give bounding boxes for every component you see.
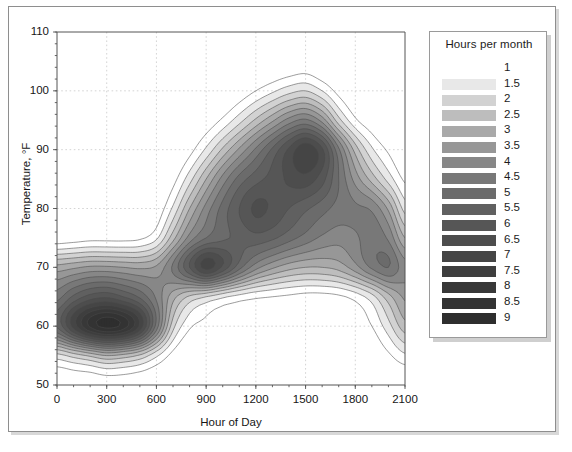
legend-entry: 6 (430, 216, 548, 232)
legend-entry-label: 6 (504, 216, 510, 230)
legend-color-swatch (442, 188, 496, 199)
legend-entry: 3.5 (430, 138, 548, 154)
legend-entry: 1 (430, 60, 548, 76)
legend-color-swatch (442, 173, 496, 184)
legend-entry: 4 (430, 154, 548, 170)
legend-entry: 5 (430, 185, 548, 201)
contour-plot-figure: 5060708090100110 03006009001200150018002… (0, 0, 572, 452)
legend-color-swatch (442, 95, 496, 106)
legend-entry-label: 1.5 (504, 76, 520, 90)
legend-entry-label: 2.5 (504, 107, 520, 121)
legend-entry: 5.5 (430, 200, 548, 216)
legend-entry: 8.5 (430, 294, 548, 310)
legend-entry-label: 5.5 (504, 200, 520, 214)
legend-color-swatch (442, 251, 496, 262)
legend-color-swatch (442, 110, 496, 121)
legend-title: Hours per month (430, 38, 548, 50)
legend-entry-label: 6.5 (504, 232, 520, 246)
legend-color-swatch (442, 64, 496, 75)
legend-color-swatch (442, 79, 496, 90)
legend-entry-label: 4 (504, 154, 510, 168)
legend-color-swatch (442, 313, 496, 324)
legend-entry-label: 1 (504, 60, 510, 74)
legend-entry-list: 11.522.533.544.555.566.577.588.59 (430, 60, 548, 325)
legend-entry-label: 8.5 (504, 294, 520, 308)
legend-entry: 7 (430, 247, 548, 263)
legend-color-swatch (442, 220, 496, 231)
legend-entry-label: 3 (504, 122, 510, 136)
legend-entry: 7.5 (430, 263, 548, 279)
legend-entry: 8 (430, 278, 548, 294)
legend-entry-label: 7 (504, 247, 510, 261)
legend-entry: 2.5 (430, 107, 548, 123)
legend-entry-label: 2 (504, 91, 510, 105)
legend-entry-label: 9 (504, 310, 510, 324)
legend-entry: 9 (430, 310, 548, 326)
legend-color-swatch (442, 235, 496, 246)
legend-color-swatch (442, 266, 496, 277)
legend-entry-label: 7.5 (504, 263, 520, 277)
legend-color-swatch (442, 282, 496, 293)
legend-color-swatch (442, 126, 496, 137)
legend-entry: 1.5 (430, 76, 548, 92)
legend-entry-label: 4.5 (504, 169, 520, 183)
legend-entry-label: 8 (504, 278, 510, 292)
legend-color-swatch (442, 142, 496, 153)
legend-entry: 6.5 (430, 232, 548, 248)
legend-color-swatch (442, 204, 496, 215)
legend-entry-label: 3.5 (504, 138, 520, 152)
legend-entry: 3 (430, 122, 548, 138)
legend-entry: 2 (430, 91, 548, 107)
legend-panel: Hours per month 11.522.533.544.555.566.5… (429, 31, 547, 338)
legend-entry: 4.5 (430, 169, 548, 185)
legend-color-swatch (442, 298, 496, 309)
legend-color-swatch (442, 157, 496, 168)
legend-entry-label: 5 (504, 185, 510, 199)
